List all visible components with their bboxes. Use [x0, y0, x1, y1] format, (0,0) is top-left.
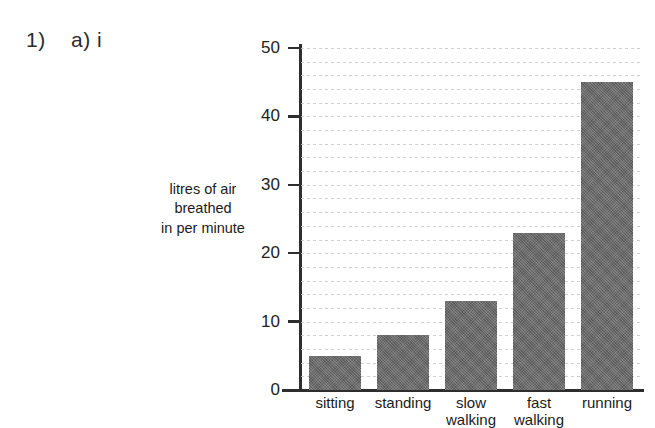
y-axis-tick-label: 0 [246, 381, 280, 398]
bar [445, 301, 497, 390]
y-axis-tick-labels: 01020304050 [246, 0, 280, 428]
y-axis-tick-label: 30 [246, 176, 280, 193]
y-axis-tick [288, 47, 300, 50]
x-axis-category-labels: sittingstandingslowwalkingfastwalkingrun… [301, 394, 641, 428]
y-axis-tick-label: 50 [246, 39, 280, 56]
y-axis-tick-label: 40 [246, 107, 280, 124]
x-axis-category-label-line: running [567, 394, 647, 411]
y-axis-tick [288, 252, 300, 255]
y-axis-tick [288, 184, 300, 187]
bar [513, 233, 565, 390]
bar [581, 82, 633, 390]
y-axis-tick [288, 320, 300, 323]
y-axis-tick [288, 389, 300, 392]
bar [309, 356, 361, 390]
plot-area [301, 48, 641, 390]
x-axis-category-label-line: walking [499, 411, 579, 428]
y-axis-tick [288, 115, 300, 118]
bar-chart-figure: litres of airbreathedin per minute 01020… [0, 0, 655, 428]
bar [377, 335, 429, 390]
y-axis-tick-label: 20 [246, 244, 280, 261]
y-axis-tick-label: 10 [246, 313, 280, 330]
x-axis-category-label: running [567, 394, 647, 411]
